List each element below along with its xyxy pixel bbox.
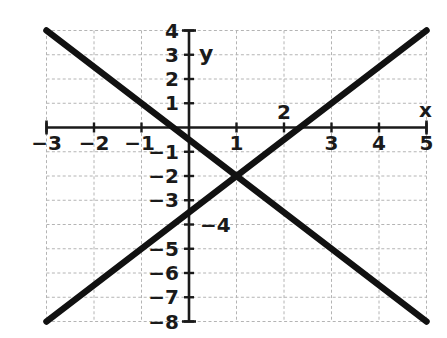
y-axis-label: y (199, 41, 213, 66)
y-tick-label--2: −2 (148, 164, 179, 188)
graph-figure: −3−2−1123454321−1−2−3−4−5−6−7−8xy (0, 0, 447, 338)
y-tick-label-4: 4 (165, 19, 179, 43)
y-tick-label-2: 2 (165, 67, 179, 91)
x-tick-label-1: 1 (230, 131, 244, 155)
y-tick-label--1: −1 (148, 140, 179, 164)
y-tick-label-1: 1 (165, 91, 179, 115)
y-tick-label--6: −6 (148, 261, 179, 285)
x-tick-label-5: 5 (420, 131, 434, 155)
y-tick-label--5: −5 (148, 237, 179, 261)
y-tick-label-3: 3 (165, 43, 179, 67)
x-tick-label-2: 2 (277, 100, 291, 124)
x-axis-label: x (419, 98, 432, 122)
y-tick-label--8: −8 (148, 310, 179, 334)
y-tick-label--4: −4 (200, 213, 231, 237)
x-tick-label--2: −2 (79, 131, 110, 155)
x-tick-label--3: −3 (31, 131, 62, 155)
y-tick-label--7: −7 (148, 285, 179, 309)
y-tick-label--3: −3 (148, 188, 179, 212)
x-tick-label-4: 4 (372, 131, 386, 155)
x-tick-label-3: 3 (325, 131, 339, 155)
coordinate-plane-svg: −3−2−1123454321−1−2−3−4−5−6−7−8xy (0, 0, 447, 338)
